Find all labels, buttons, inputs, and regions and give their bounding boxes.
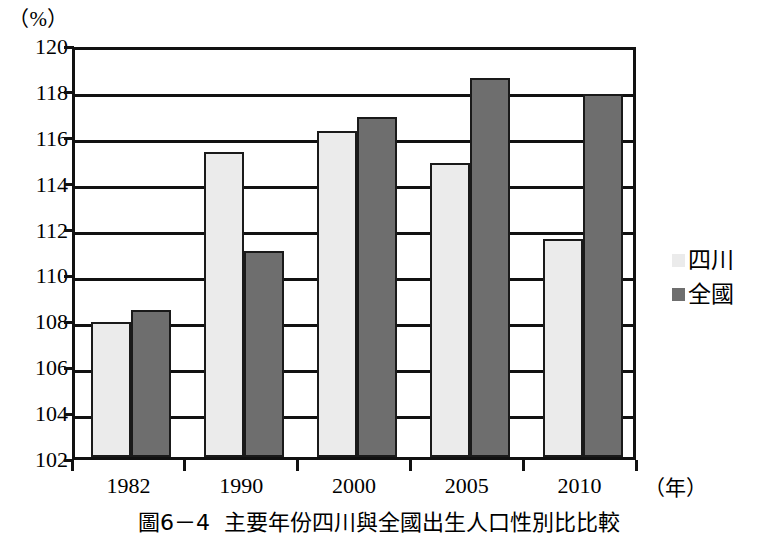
bar-全國-2000 — [357, 117, 397, 457]
y-axis-tick-label: 106 — [12, 357, 68, 379]
legend-swatch-sichuan-icon — [672, 254, 685, 267]
figure-caption: 圖6－4主要年份四川與全國出生人口性別比比較 — [0, 504, 758, 536]
figure-caption-text: 主要年份四川與全國出生人口性別比比較 — [224, 510, 620, 535]
bar-全國-1990 — [244, 251, 284, 458]
x-axis-tick-label: 2000 — [332, 473, 376, 499]
x-axis-tick — [409, 460, 412, 471]
figure-caption-number: 圖6－4 — [138, 510, 210, 535]
gridline — [75, 94, 633, 97]
bar-全國-2010 — [583, 94, 623, 457]
plot-area — [72, 47, 636, 460]
y-axis-unit-label: （%） — [8, 2, 69, 32]
bar-四川-2000 — [317, 131, 357, 457]
x-axis-unit-label: （年） — [644, 471, 707, 501]
bar-四川-2010 — [543, 239, 583, 457]
x-axis-tick — [296, 460, 299, 471]
plot-inner — [75, 50, 633, 457]
bar-四川-1990 — [204, 152, 244, 457]
x-axis-tick — [71, 460, 74, 471]
legend-swatch-national-icon — [672, 288, 685, 301]
x-axis-tick-label: 1990 — [219, 473, 263, 499]
y-axis-tick-label: 116 — [12, 128, 68, 150]
y-axis-tick-label: 108 — [12, 311, 68, 333]
y-axis-tick-label: 102 — [12, 449, 68, 471]
legend-label-sichuan: 四川 — [688, 249, 734, 272]
x-axis-tick — [522, 460, 525, 471]
y-axis-tick-label: 118 — [12, 82, 68, 104]
bar-全國-1982 — [131, 310, 171, 457]
x-axis-tick — [635, 460, 638, 471]
x-axis-tick-label: 2010 — [558, 473, 602, 499]
legend-item-national: 全國 — [672, 277, 758, 311]
chart-legend: 四川 全國 — [672, 243, 758, 311]
bar-四川-2005 — [430, 163, 470, 457]
legend-item-sichuan: 四川 — [672, 243, 758, 277]
x-axis-tick-label: 2005 — [445, 473, 489, 499]
y-axis-tick-label: 104 — [12, 403, 68, 425]
legend-label-national: 全國 — [688, 283, 734, 306]
x-axis-tick — [183, 460, 186, 471]
bar-全國-2005 — [470, 78, 510, 457]
y-axis-tick-label: 112 — [12, 220, 68, 242]
y-axis-tick-label: 120 — [12, 36, 68, 58]
bar-四川-1982 — [91, 322, 131, 457]
y-axis-tick-label: 114 — [12, 174, 68, 196]
y-axis-tick-label: 110 — [12, 265, 68, 287]
x-axis-tick-label: 1982 — [106, 473, 150, 499]
